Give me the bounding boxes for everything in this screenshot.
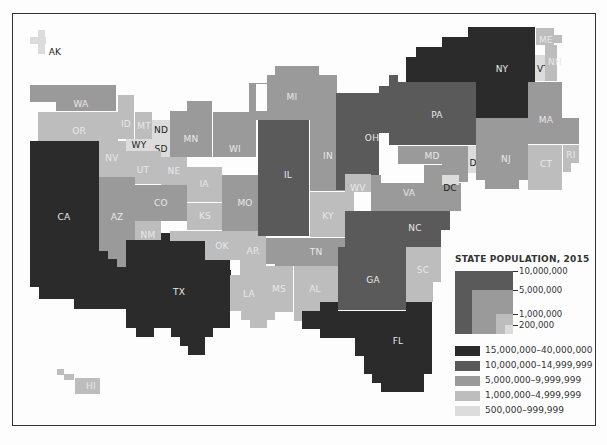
label-la: LA xyxy=(243,289,255,299)
size-tick-5m: 5,000,000 xyxy=(513,285,562,295)
label-ms: MS xyxy=(272,284,286,294)
state-tx-part xyxy=(171,328,213,337)
state-sc-part xyxy=(433,247,441,282)
legend-label: 1,000,000–4,999,999 xyxy=(485,390,581,400)
label-ny: NY xyxy=(496,64,509,74)
label-al: AL xyxy=(309,284,321,294)
label-md: MD xyxy=(424,151,439,161)
state-oh-part xyxy=(379,86,389,133)
label-mi: MI xyxy=(287,92,298,102)
state-tx-part xyxy=(136,328,154,337)
state-ny[interactable] xyxy=(406,57,535,82)
label-pa: PA xyxy=(431,110,442,120)
state-mn-part xyxy=(187,101,212,111)
label-ct: CT xyxy=(540,159,552,169)
state-ca-part xyxy=(74,299,126,309)
label-hi: HI xyxy=(86,381,96,391)
state-fl-part xyxy=(320,329,432,338)
label-in: IN xyxy=(323,151,333,161)
label-nd: ND xyxy=(154,125,168,135)
label-ok: OK xyxy=(215,241,228,251)
state-tx-part xyxy=(180,337,205,346)
label-sc: SC xyxy=(417,265,429,275)
state-nc[interactable] xyxy=(345,211,441,247)
state-ny-part xyxy=(468,27,535,57)
state-ca-part xyxy=(39,287,126,299)
label-mo: MO xyxy=(237,198,252,208)
label-nh: NH xyxy=(548,57,562,67)
label-wy: WY xyxy=(132,140,147,150)
label-ut: UT xyxy=(137,165,150,175)
state-mi-part xyxy=(249,75,267,83)
label-id: ID xyxy=(121,119,131,129)
label-ak: AK xyxy=(49,47,61,57)
state-nj[interactable] xyxy=(476,118,528,180)
label-ks: KS xyxy=(199,211,211,221)
state-la-part xyxy=(250,320,267,328)
label-tn: TN xyxy=(310,247,323,257)
label-ca: CA xyxy=(58,212,71,222)
label-ar: AR xyxy=(247,246,260,256)
legend-swatch xyxy=(455,391,480,401)
label-ma: MA xyxy=(539,115,553,125)
state-fl-part xyxy=(381,383,424,392)
label-me: ME xyxy=(539,35,553,45)
legend-swatch xyxy=(455,361,480,371)
state-va-part xyxy=(371,175,381,183)
state-tx-part xyxy=(161,233,170,241)
legend-swatch xyxy=(455,376,480,386)
label-dc: DC xyxy=(443,183,457,193)
label-tx: TX xyxy=(173,287,185,297)
state-hi[interactable] xyxy=(57,369,64,375)
state-hi-part xyxy=(64,374,74,380)
label-mn: MN xyxy=(184,134,199,144)
state-nj-part xyxy=(485,180,519,189)
label-mt: MT xyxy=(137,121,151,131)
size-square-200k xyxy=(505,325,513,334)
state-fl[interactable] xyxy=(302,311,432,329)
legend-swatch xyxy=(455,346,480,356)
label-az: AZ xyxy=(111,212,124,222)
state-tx-part xyxy=(144,248,161,256)
state-mi[interactable] xyxy=(240,112,336,120)
state-mi-part xyxy=(275,66,319,76)
state-ma[interactable] xyxy=(528,82,562,144)
state-ny-part xyxy=(442,37,468,57)
label-ia: IA xyxy=(199,179,208,189)
label-ky: KY xyxy=(322,211,333,221)
label-ne: NE xyxy=(168,166,181,176)
label-nm: NM xyxy=(141,230,156,240)
label-wv: WV xyxy=(350,183,365,193)
state-ok-part xyxy=(170,231,205,241)
legend-label: 10,000,000–14,999,999 xyxy=(485,360,593,370)
legend-label: 15,000,000–40,000,000 xyxy=(485,345,593,355)
size-tick-200k: 200,000 xyxy=(513,320,554,330)
label-nj: NJ xyxy=(501,154,511,164)
state-la-part xyxy=(241,311,275,320)
legend-label: 5,000,000–9,999,999 xyxy=(485,375,581,385)
state-ny-part xyxy=(476,82,528,118)
state-id[interactable] xyxy=(118,95,134,139)
state-mi-part xyxy=(256,84,267,111)
label-fl: FL xyxy=(393,336,404,346)
state-ak-part xyxy=(38,30,45,54)
state-ny-part xyxy=(416,47,442,57)
label-co: CO xyxy=(154,198,168,208)
label-nc: NC xyxy=(408,223,421,233)
state-va-part xyxy=(424,165,442,183)
state-ri-part xyxy=(563,163,571,172)
state-fl-part xyxy=(320,302,338,312)
label-oh: OH xyxy=(365,133,379,143)
label-il: IL xyxy=(284,170,292,180)
state-tx-part xyxy=(188,346,205,355)
state-fl-part xyxy=(372,374,424,383)
size-tick-10m: 10,000,000 xyxy=(513,266,568,276)
state-me-part xyxy=(554,35,562,43)
label-va: VA xyxy=(403,188,415,198)
size-tick-1m: 1,000,000 xyxy=(513,309,562,319)
state-ma-part xyxy=(562,118,579,144)
label-ri: RI xyxy=(566,150,575,160)
legend-title: STATE POPULATION, 2015 xyxy=(455,254,589,264)
label-ga: GA xyxy=(366,275,380,285)
state-fl-part xyxy=(364,356,432,374)
